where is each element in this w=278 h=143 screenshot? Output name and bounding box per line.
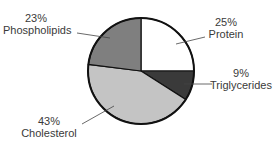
label-triglycerides: 9% Triglycerides	[208, 67, 274, 91]
label-cholesterol-pct: 43%	[18, 115, 80, 127]
leader-line-cholesterol	[82, 106, 114, 124]
label-cholesterol-name: Cholesterol	[18, 127, 80, 139]
label-phospholipids: 23% Phospholipids	[3, 12, 69, 36]
label-phospholipids-pct: 23%	[3, 12, 69, 24]
label-triglycerides-name: Triglycerides	[208, 79, 274, 91]
label-protein-name: Protein	[204, 28, 248, 40]
label-protein: 25% Protein	[204, 16, 248, 40]
label-triglycerides-pct: 9%	[208, 67, 274, 79]
label-cholesterol: 43% Cholesterol	[18, 115, 80, 139]
label-phospholipids-name: Phospholipids	[3, 24, 69, 36]
pie-chart: 25% Protein 9% Triglycerides 43% Cholest…	[0, 0, 278, 143]
label-protein-pct: 25%	[204, 16, 248, 28]
